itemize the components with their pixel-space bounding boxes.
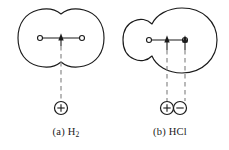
molecular-polarization-figure: (a) H2 (b) HCl	[0, 0, 229, 150]
hcl-nucleus-left	[147, 38, 152, 43]
panel-b-group	[123, 8, 217, 115]
panel-a-caption-subscript: 2	[75, 130, 79, 139]
h2-nucleus-left	[38, 36, 43, 41]
h2-positive-charge	[55, 102, 68, 115]
panel-a-caption-prefix: (a)	[53, 126, 68, 137]
hcl-positive-charge	[161, 102, 174, 115]
panel-a-caption: (a) H2	[27, 126, 105, 139]
h2-nucleus-right	[80, 36, 85, 41]
panel-a-group	[18, 9, 104, 114]
panel-b-caption: (b) HCl	[131, 126, 209, 137]
hcl-negative-charge	[174, 102, 187, 115]
